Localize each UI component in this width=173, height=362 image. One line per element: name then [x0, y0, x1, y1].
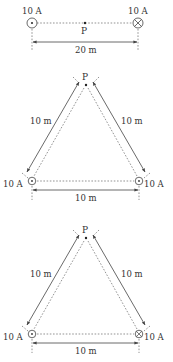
fig2-left-corner-tick: [22, 173, 28, 178]
point-p-marker: [85, 237, 87, 239]
fig1-separation-label: 20 m: [75, 45, 97, 55]
fig2-left-dashed-side: [34, 88, 84, 176]
fig3-apex-tick-left: [73, 230, 79, 236]
point-p-marker: [85, 84, 87, 86]
fig2-right-current-label: 10 A: [144, 179, 165, 189]
fig1-right-current-label: 10 A: [128, 6, 149, 16]
fig3-base-label: 10 m: [75, 346, 97, 356]
fig3-left-current-label: 10 A: [3, 332, 24, 342]
fig3-right-side-label: 10 m: [121, 269, 143, 279]
wire-out-of-page-icon: [28, 177, 36, 185]
point-p-marker: [84, 22, 86, 24]
fig2-apex-label: P: [82, 72, 88, 82]
fig3-left-corner-tick: [22, 326, 28, 331]
fig3-apex-label: P: [82, 225, 88, 235]
fig2-apex-tick-left: [73, 77, 79, 83]
diagram-canvas: 10 A 10 A P 20 m P: [0, 0, 173, 362]
wire-into-page-icon: [135, 330, 143, 338]
fig3-right-current-label: 10 A: [144, 332, 165, 342]
wire-into-page-icon: [133, 18, 143, 28]
fig2-right-dashed-side: [88, 88, 137, 176]
fig3-left-dashed-side: [34, 241, 84, 329]
fig2-left-current-label: 10 A: [3, 179, 24, 189]
fig2-right-side-label: 10 m: [121, 116, 143, 126]
fig1-left-current-label: 10 A: [22, 6, 43, 16]
fig3-left-side-label: 10 m: [30, 269, 52, 279]
fig2-right-dimension-arrow: [93, 82, 145, 172]
fig1-point-label: P: [81, 26, 87, 36]
figure-3: P 10 m 10 m 10 A 10 A 10 m: [3, 225, 165, 356]
fig3-right-dashed-side: [88, 241, 137, 329]
fig2-left-side-label: 10 m: [30, 116, 52, 126]
wire-out-of-page-icon: [27, 18, 37, 28]
fig3-left-dimension-arrow: [27, 235, 79, 325]
wire-out-of-page-icon: [28, 330, 36, 338]
fig2-left-dimension-arrow: [27, 82, 79, 172]
fig3-right-corner-tick: [144, 326, 150, 331]
fig3-apex-tick-right: [93, 230, 99, 236]
fig2-apex-tick-right: [93, 77, 99, 83]
wire-out-of-page-icon: [135, 177, 143, 185]
fig2-base-label: 10 m: [75, 193, 97, 203]
fig3-right-dimension-arrow: [93, 235, 145, 325]
figure-1: 10 A 10 A P 20 m: [22, 6, 149, 55]
fig2-right-corner-tick: [144, 173, 150, 178]
figure-2: P 10 m 10 m 10 A 10 A 10 m: [3, 72, 165, 203]
